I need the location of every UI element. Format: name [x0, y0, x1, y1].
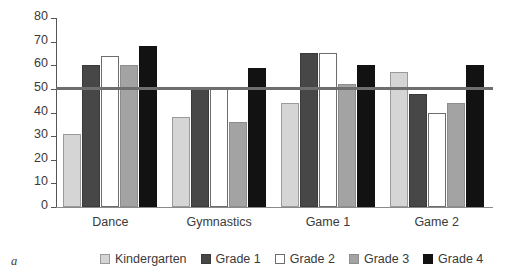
y-tick-mark [51, 42, 56, 43]
x-axis-category-label: Game 1 [281, 216, 375, 229]
bar [428, 113, 446, 208]
bar [409, 94, 427, 207]
legend-item[interactable]: Grade 1 [201, 253, 261, 266]
y-tick-label: 30 [34, 128, 48, 141]
bar [390, 72, 408, 207]
y-tick-label: 60 [34, 57, 48, 70]
bar-group [390, 18, 484, 207]
bar [63, 134, 81, 207]
bar [319, 53, 337, 207]
legend-swatch-icon [201, 254, 211, 264]
bar-group [281, 18, 375, 207]
legend-label: Kindergarten [115, 253, 187, 266]
y-tick-label: 80 [34, 10, 48, 23]
bar-group [63, 18, 157, 207]
bar [191, 89, 209, 207]
y-tick-mark [51, 207, 56, 208]
legend-label: Grade 3 [364, 253, 409, 266]
y-tick-mark [51, 160, 56, 161]
panel-label: a [11, 254, 17, 269]
y-tick-mark [51, 18, 56, 19]
bar [172, 117, 190, 207]
y-tick-mark [51, 65, 56, 66]
figure-panel: 01020304050607080 a KindergartenGrade 1G… [0, 0, 513, 280]
y-tick-label: 50 [34, 81, 48, 94]
plot-area: 01020304050607080 [56, 18, 491, 207]
legend-swatch-icon [423, 254, 433, 264]
x-axis-category-label: Dance [63, 216, 157, 229]
legend-item[interactable]: Grade 4 [423, 253, 483, 266]
y-tick-label: 70 [34, 34, 48, 47]
y-tick-mark [51, 183, 56, 184]
legend-swatch-icon [275, 254, 285, 264]
legend-swatch-icon [100, 254, 110, 264]
bar-group [172, 18, 266, 207]
bar [229, 122, 247, 207]
legend-item[interactable]: Grade 2 [275, 253, 335, 266]
reference-line-50 [56, 87, 493, 90]
legend-label: Grade 4 [438, 253, 483, 266]
legend-item[interactable]: Kindergarten [100, 253, 187, 266]
legend-label: Grade 1 [216, 253, 261, 266]
y-tick-mark [51, 113, 56, 114]
bar [139, 46, 157, 207]
y-tick-label: 0 [41, 199, 48, 212]
chart-legend: KindergartenGrade 1Grade 2Grade 3Grade 4 [100, 253, 483, 266]
bar [281, 103, 299, 207]
bar [447, 103, 465, 207]
bar [338, 84, 356, 207]
legend-label: Grade 2 [290, 253, 335, 266]
bar [210, 89, 228, 207]
y-tick-label: 20 [34, 152, 48, 165]
y-tick-label: 40 [34, 105, 48, 118]
x-axis-category-label: Game 2 [390, 216, 484, 229]
x-axis-category-label: Gymnastics [172, 216, 266, 229]
legend-swatch-icon [349, 254, 359, 264]
bar [101, 56, 119, 207]
legend-item[interactable]: Grade 3 [349, 253, 409, 266]
bar [300, 53, 318, 207]
y-tick-label: 10 [34, 175, 48, 188]
x-axis-line [56, 207, 493, 208]
y-tick-mark [51, 136, 56, 137]
